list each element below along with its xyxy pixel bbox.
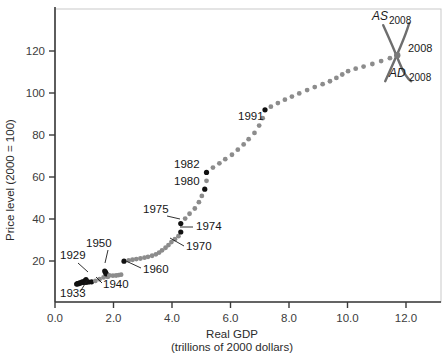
ad-curve-label: AD (388, 66, 406, 80)
x-tick-label-4.0: 4.0 (164, 312, 180, 324)
data-point-63 (257, 123, 262, 128)
data-point-51 (199, 194, 204, 199)
label-1974: 1974 (196, 220, 222, 232)
data-point-61 (246, 137, 251, 142)
x-axis-title: Real GDP (206, 328, 258, 340)
data-point-55 (211, 165, 216, 170)
label-1970: 1970 (186, 240, 212, 252)
data-point-73 (320, 82, 325, 87)
y-tick-label-40: 40 (32, 213, 45, 225)
data-point-47 (183, 216, 188, 221)
data-point-48 (187, 211, 192, 216)
price-level-real-gdp-scatter-chart: 204060801001200.02.04.06.08.010.012.0 19… (0, 0, 446, 361)
y-tick-label-100: 100 (26, 87, 45, 99)
data-point-70 (297, 91, 302, 96)
data-point-56 (217, 161, 222, 166)
data-point-57 (223, 157, 228, 162)
data-point-53 (204, 178, 209, 183)
data-point-14 (93, 279, 98, 284)
y-tick-label-60: 60 (32, 171, 45, 183)
data-point-35 (146, 254, 151, 259)
data-point-71 (305, 88, 310, 93)
data-point-59 (235, 147, 240, 152)
data-point-66 (268, 104, 273, 109)
data-point-32 (134, 257, 139, 262)
x-tick-label-2.0: 2.0 (106, 312, 122, 324)
equilibrium-2008-label: 2008 (408, 42, 432, 54)
data-point-80 (370, 62, 375, 67)
label-1982: 1982 (174, 158, 200, 170)
label-1980: 1980 (174, 175, 200, 187)
data-point-72 (312, 85, 317, 90)
equilibrium-2008-point (394, 52, 400, 58)
as-curve-label: AS (371, 9, 388, 23)
data-point-75 (334, 75, 339, 80)
x-tick-label-12.0: 12.0 (395, 312, 417, 324)
label-1960: 1960 (143, 263, 169, 275)
data-point-33 (138, 256, 143, 261)
y-tick-label-20: 20 (32, 255, 45, 267)
x-tick-label-8.0: 8.0 (281, 312, 297, 324)
data-point-49 (192, 206, 197, 211)
x-tick-label-10.0: 10.0 (336, 312, 358, 324)
data-point-81 (379, 59, 384, 64)
data-point-74 (328, 79, 333, 84)
x-axis-subtitle: (trillions of 2000 dollars) (171, 341, 293, 353)
y-axis-title: Price level (2000 = 100) (4, 119, 16, 241)
data-point-62 (252, 131, 257, 136)
plot-area-border (55, 9, 441, 302)
data-point-1975 (178, 221, 183, 226)
figure-container: 204060801001200.02.04.06.08.010.012.0 19… (0, 0, 446, 361)
x-tick-label-6.0: 6.0 (223, 312, 239, 324)
data-point-77 (346, 69, 351, 74)
x-tick-label-0.0: 0.0 (47, 312, 63, 324)
data-point-69 (290, 94, 295, 99)
data-point-1974 (178, 229, 183, 234)
data-point-60 (241, 142, 246, 147)
y-tick-label-120: 120 (26, 45, 45, 57)
label-1933: 1933 (60, 287, 86, 299)
data-point-50 (197, 200, 202, 205)
ad-curve-sublabel: 2008 (409, 72, 432, 83)
data-point-58 (230, 152, 235, 157)
data-point-79 (361, 64, 366, 69)
data-point-82 (388, 56, 393, 61)
data-point-1982 (204, 170, 209, 175)
data-point-67 (275, 101, 280, 106)
label-1940: 1940 (103, 278, 129, 290)
data-point-1960 (121, 259, 126, 264)
label-1950: 1950 (86, 237, 112, 249)
data-point-78 (353, 66, 358, 71)
data-point-68 (283, 97, 288, 102)
label-1991: 1991 (238, 110, 264, 122)
as-curve-sublabel: 2008 (389, 15, 412, 26)
y-tick-label-80: 80 (32, 129, 45, 141)
plot-frame (55, 7, 441, 302)
data-point-1980 (202, 187, 207, 192)
label-1975: 1975 (143, 203, 169, 215)
label-1929: 1929 (60, 249, 86, 261)
data-point-76 (340, 72, 345, 77)
data-point-44 (176, 234, 181, 239)
data-point-28 (119, 272, 124, 277)
